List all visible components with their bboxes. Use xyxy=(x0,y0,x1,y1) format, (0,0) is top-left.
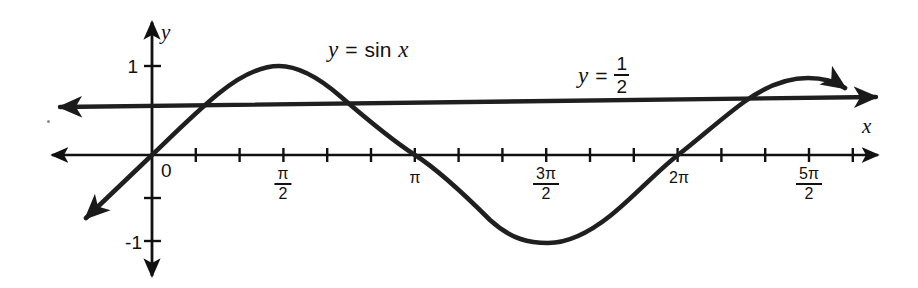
sine-label-arg: x xyxy=(398,38,408,61)
x-tick-label-pi-over-2: π 2 xyxy=(274,166,291,203)
half-equation-label: y = 1 2 xyxy=(578,54,629,97)
sine-graph-figure: y x 0 1 -1 π 2 π 3π 2 2π 5π 2 y = sin x … xyxy=(0,0,918,288)
half-label-equals: = xyxy=(595,65,607,86)
sine-label-fn: sin xyxy=(364,39,391,60)
y-tick-label-neg1: -1 xyxy=(125,233,142,252)
x-tick-label-2pi: 2π xyxy=(669,170,689,186)
sine-equation-label: y = sin x xyxy=(328,38,409,61)
x-tick-label-pi: π xyxy=(409,170,420,186)
x-tick-label-3pi-over-2: 3π 2 xyxy=(533,166,559,203)
x-tick-label-5pi-over-2: 5π 2 xyxy=(796,166,822,203)
fraction-pi-over-2: π 2 xyxy=(274,166,291,203)
x-axis-label: x xyxy=(862,116,871,137)
sine-label-y: y xyxy=(328,38,338,61)
half-line-curve xyxy=(60,97,876,107)
fraction-5pi-over-2: 5π 2 xyxy=(796,166,822,203)
fraction-one-half: 1 2 xyxy=(614,54,629,97)
half-label-y: y xyxy=(578,64,588,87)
origin-label: 0 xyxy=(161,161,172,180)
y-axis-label: y xyxy=(161,22,170,43)
fraction-3pi-over-2: 3π 2 xyxy=(533,166,559,203)
sine-label-equals: = xyxy=(345,39,357,60)
scan-speck xyxy=(47,120,50,123)
y-tick-label-1: 1 xyxy=(127,57,138,76)
